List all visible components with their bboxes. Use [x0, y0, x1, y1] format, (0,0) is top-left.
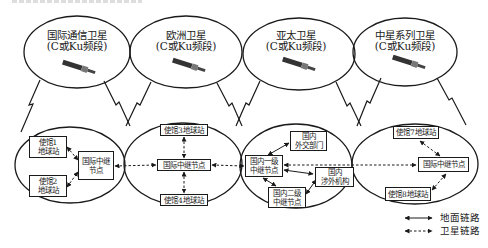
sat2-ellipse: [130, 16, 242, 88]
satellite-band: (C或Ku频段): [136, 41, 236, 52]
legend-satellite-label: 卫星链路: [440, 226, 480, 236]
satellite-icon: [172, 57, 206, 73]
diagram-canvas: 国际通信卫星 (C或Ku频段) 欧洲卫星 (C或Ku频段) 亚太卫星 (C或Ku…: [0, 0, 488, 248]
satellite-icon: [392, 54, 426, 70]
embassy8-earth-station: 使馆8地球站: [385, 187, 431, 201]
sat1-ellipse: [24, 16, 130, 88]
satellite-icon: [282, 56, 316, 72]
satellite-band: (C或Ku频段): [246, 41, 346, 52]
embassy2-earth-station: 使馆2 地球站: [29, 175, 67, 197]
domestic-foreign-affairs-dept: 国内 外交部门: [290, 131, 327, 151]
domestic-secondary-relay-node: 国内二级 中继节点: [268, 187, 306, 208]
satellite-label: 国际通信卫星 (C或Ku频段): [27, 30, 127, 52]
domestic-foreign-related-agency: 国内 涉外机构: [315, 167, 354, 187]
embassy1-earth-station: 使馆1 地球站: [29, 136, 67, 158]
embassy7-earth-station: 使馆7地球站: [393, 126, 439, 139]
embassy4-earth-station: 使馆4地球站: [160, 194, 208, 206]
satellite-ellipses: [24, 16, 457, 90]
satellite-band: (C或Ku频段): [355, 41, 455, 52]
intl-relay-node-4: 国际中继节点: [418, 157, 469, 172]
legend-arrows: [405, 218, 432, 231]
intl-relay-node-1: 国际中继 节点: [78, 151, 114, 180]
satellite-label: 欧洲卫星 (C或Ku频段): [136, 30, 236, 52]
satellite-icon: [62, 59, 96, 75]
intl-relay-node-2: 国际中继节点: [157, 159, 211, 171]
satellite-icons: [62, 54, 426, 75]
satellite-label: 亚太卫星 (C或Ku频段): [246, 30, 346, 52]
legend-ground-label: 地面链路: [440, 213, 480, 223]
satellite-band: (C或Ku频段): [27, 41, 127, 52]
satellite-label: 中星系列卫星 (C或Ku频段): [355, 30, 455, 52]
domestic-primary-relay-node: 国内一级 中继节点: [245, 155, 283, 177]
embassy3-earth-station: 使馆3地球站: [160, 124, 208, 136]
